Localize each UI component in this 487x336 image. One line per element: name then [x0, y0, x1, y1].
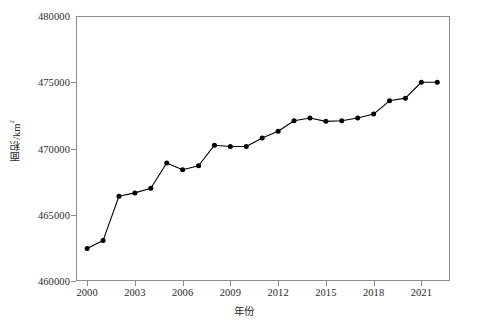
x-tick-label: 2021	[411, 287, 432, 298]
y-tick-label: 475000	[38, 77, 70, 88]
x-tick-mark	[278, 281, 279, 286]
x-tick-label: 2003	[124, 287, 145, 298]
x-tick-mark	[421, 281, 422, 286]
x-tick-mark	[326, 281, 327, 286]
y-axis-title: 面积/km2	[6, 120, 22, 162]
x-tick-label: 2000	[76, 287, 97, 298]
y-tick-mark	[71, 149, 76, 150]
y-tick-label: 470000	[38, 143, 70, 154]
x-tick-label: 2009	[220, 287, 241, 298]
y-tick-label: 465000	[38, 209, 70, 220]
x-tick-label: 2015	[315, 287, 336, 298]
x-axis-title: 年份	[0, 303, 487, 318]
x-tick-mark	[230, 281, 231, 286]
x-tick-label: 2012	[267, 287, 288, 298]
x-tick-mark	[374, 281, 375, 286]
x-tick-label: 2018	[363, 287, 384, 298]
y-tick-mark	[71, 215, 76, 216]
y-axis-tick-labels: 460000465000470000475000480000	[0, 0, 70, 336]
y-axis-title-text: 面积/km	[11, 124, 22, 162]
x-tick-mark	[87, 281, 88, 286]
plot-area	[76, 16, 450, 281]
x-tick-label: 2006	[172, 287, 193, 298]
y-tick-mark	[71, 82, 76, 83]
y-tick-label: 460000	[38, 276, 70, 287]
chart-figure: 460000465000470000475000480000 200020032…	[0, 0, 487, 336]
y-tick-label: 480000	[38, 11, 70, 22]
x-tick-mark	[135, 281, 136, 286]
y-tick-mark	[71, 281, 76, 282]
x-tick-mark	[183, 281, 184, 286]
y-axis-title-superscript: 2	[8, 120, 16, 124]
